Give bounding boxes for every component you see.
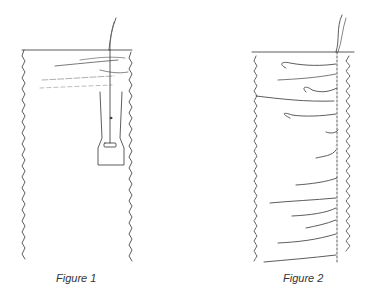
figure-2-sketch: [186, 0, 372, 302]
figure-1-sketch: [0, 0, 186, 302]
figure-1: Figure 1: [0, 0, 186, 302]
figure-2: Figure 2: [186, 0, 372, 302]
figure-2-caption: Figure 2: [283, 272, 323, 284]
figure-1-caption: Figure 1: [56, 272, 96, 284]
